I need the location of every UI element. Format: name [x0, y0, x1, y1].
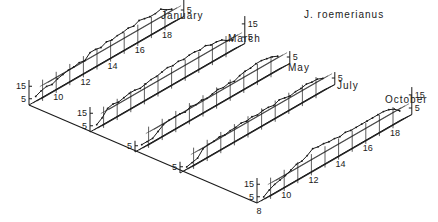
- data-point: [73, 66, 75, 68]
- data-point: [350, 130, 352, 132]
- data-point: [139, 87, 141, 89]
- data-point: [96, 124, 98, 126]
- y-tick-label: 15: [77, 108, 87, 118]
- data-point: [285, 175, 287, 177]
- data-point: [141, 144, 143, 146]
- chart-axes: [29, 105, 257, 203]
- y-tick-label-right: 5: [293, 52, 298, 62]
- data-point: [107, 108, 109, 110]
- data-point: [339, 136, 341, 138]
- data-point: [229, 130, 231, 132]
- data-point: [210, 44, 212, 46]
- data-point: [183, 59, 185, 61]
- grid-line: [154, 53, 287, 130]
- data-point: [224, 134, 226, 136]
- y-tick-label-right: 15: [248, 19, 258, 29]
- x-tick-label: 8: [256, 206, 261, 216]
- data-point: [240, 122, 242, 124]
- grid-line: [192, 85, 335, 167]
- data-point: [89, 52, 91, 54]
- data-point: [311, 81, 313, 83]
- depth-axis: [29, 105, 257, 203]
- data-point: [268, 189, 270, 191]
- data-point: [123, 97, 125, 99]
- grid-line: [40, 10, 173, 87]
- data-point: [383, 111, 385, 113]
- x-tick-label: 18: [162, 30, 172, 40]
- data-point: [149, 16, 151, 18]
- panel-july: 55: [172, 72, 343, 173]
- data-point: [250, 67, 252, 69]
- data-point: [100, 47, 102, 49]
- axis-corner: [323, 85, 335, 91]
- data-point: [257, 114, 259, 116]
- data-point: [122, 32, 124, 34]
- data-point: [167, 67, 169, 69]
- data-point: [277, 55, 279, 57]
- data-point: [40, 90, 42, 92]
- data-point: [328, 141, 330, 143]
- data-point: [186, 166, 188, 168]
- data-point: [111, 39, 113, 41]
- data-point: [263, 196, 265, 198]
- data-point: [228, 82, 230, 84]
- data-point: [144, 18, 146, 20]
- data-point: [101, 117, 103, 119]
- data-point: [271, 56, 273, 58]
- data-point: [239, 75, 241, 77]
- data-point: [201, 99, 203, 101]
- panel-title-july: July: [337, 80, 359, 91]
- data-point: [388, 109, 390, 111]
- data-point: [290, 169, 292, 171]
- data-point: [197, 157, 199, 159]
- y-tick-label: 5: [249, 192, 254, 202]
- x-tick-label: 14: [336, 159, 346, 169]
- data-point: [301, 160, 303, 162]
- data-point: [106, 41, 108, 43]
- data-point: [112, 103, 114, 105]
- data-point: [134, 89, 136, 91]
- data-point: [116, 35, 118, 37]
- waterfall-chart: 5155151012141618515515555551551581012141…: [0, 0, 438, 222]
- data-point: [138, 20, 140, 22]
- chart-panels: 5155151012141618515515555551551581012141…: [16, 0, 425, 216]
- panel-title-march: March: [228, 33, 261, 44]
- data-point: [372, 117, 374, 119]
- data-point: [199, 49, 201, 51]
- data-point: [295, 163, 297, 165]
- data-point: [399, 110, 401, 112]
- data-point: [156, 75, 158, 77]
- data-point: [172, 65, 174, 67]
- data-point: [233, 80, 235, 82]
- grid-line: [272, 106, 405, 183]
- data-point: [322, 78, 324, 80]
- data-point: [212, 93, 214, 95]
- data-point: [184, 111, 186, 113]
- data-point: [78, 62, 80, 64]
- y-tick-label-right: 15: [187, 0, 197, 2]
- panel-title-may: May: [288, 62, 310, 73]
- grid-line: [102, 44, 245, 126]
- data-point: [152, 138, 154, 140]
- data-point: [273, 105, 275, 107]
- data-point: [361, 123, 363, 125]
- data-point: [244, 70, 246, 72]
- data-point: [334, 138, 336, 140]
- data-point: [316, 78, 318, 80]
- data-point: [128, 92, 130, 94]
- data-point: [261, 60, 263, 62]
- data-point: [344, 131, 346, 133]
- data-point: [246, 120, 248, 122]
- data-point: [251, 116, 253, 118]
- data-point: [312, 148, 314, 150]
- data-point: [35, 96, 37, 98]
- y-tick-label: 15: [244, 179, 254, 189]
- data-point: [62, 74, 64, 76]
- grid-line: [109, 33, 242, 110]
- y-tick-label: 15: [16, 81, 26, 91]
- data-point: [179, 113, 181, 115]
- data-point: [155, 13, 157, 15]
- data-point: [289, 95, 291, 97]
- data-point: [157, 131, 159, 133]
- data-point: [262, 110, 264, 112]
